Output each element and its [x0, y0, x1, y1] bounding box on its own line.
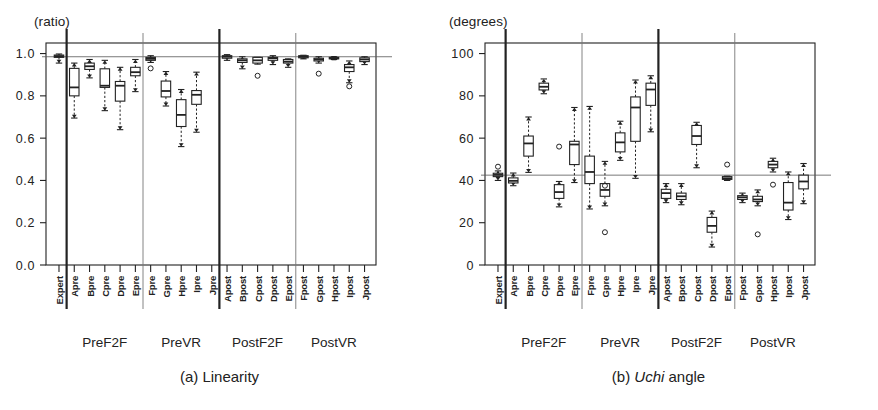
x-tick-label: Cpre	[100, 276, 111, 297]
x-tick-label: Fpre	[146, 276, 157, 296]
boxplot-box	[615, 121, 624, 160]
x-tick-label: Ipre	[630, 276, 641, 293]
group-label: PostVR	[750, 335, 796, 350]
panel-uchi-angle: (degrees) 020406080100ExpertApreBpreCpre…	[439, 0, 878, 410]
boxplot-box	[360, 57, 369, 65]
boxplot-box	[677, 184, 686, 205]
outlier-point	[725, 162, 730, 167]
x-tick-label: Dpost	[707, 275, 718, 302]
x-tick-label: Dpre	[554, 276, 565, 297]
boxplot-box	[692, 122, 701, 167]
x-tick-label: Apost	[661, 275, 672, 302]
x-tick-label: Apre	[508, 276, 519, 297]
y-tick-label: 80	[459, 89, 474, 103]
boxplot-box	[722, 162, 731, 180]
boxplot-box	[299, 55, 308, 59]
x-tick-label: Jpre	[207, 276, 218, 295]
outlier-point	[316, 71, 321, 76]
boxplot-box	[631, 80, 640, 178]
x-tick-label: Gpost	[753, 275, 764, 302]
x-tick-label: Apre	[69, 276, 80, 297]
boxplot-box	[100, 60, 109, 110]
outlier-point	[602, 230, 607, 235]
y-tick-label: 60	[459, 132, 474, 146]
x-tick-label: Gpost	[314, 275, 325, 302]
x-tick-label: Ipre	[191, 276, 202, 293]
boxplot-box	[646, 76, 655, 132]
boxplot-box	[585, 106, 594, 209]
x-tick-label: Bpost	[237, 275, 248, 302]
outlier-point	[495, 164, 500, 169]
x-tick-label: Cpost	[253, 275, 264, 302]
y-tick-label: 0.4	[16, 174, 35, 188]
caption-rest-b: angle	[664, 368, 705, 385]
x-tick-label: Jpost	[360, 275, 371, 300]
caption-italic-b: Uchi	[634, 368, 664, 385]
x-tick-label: Bpre	[524, 276, 535, 297]
y-tick-label: 0	[466, 259, 474, 273]
boxplot-box	[70, 63, 79, 118]
x-tick-label: Epost	[722, 275, 733, 301]
boxplot-box	[146, 56, 155, 71]
boxplot-box	[661, 184, 670, 203]
y-tick-label: 0.8	[16, 89, 35, 103]
boxplot-box	[707, 211, 716, 247]
x-tick-label: Fpost	[298, 275, 309, 301]
x-tick-label: Jpost	[799, 275, 810, 300]
boxplot-box	[253, 57, 262, 78]
group-label: PreVR	[161, 335, 201, 350]
x-tick-label: Hpost	[329, 275, 340, 302]
boxplot-box	[539, 79, 548, 94]
caption-rest-a: Linearity	[202, 368, 259, 385]
group-label: PostVR	[311, 335, 357, 350]
x-tick-label: Fpre	[585, 276, 596, 296]
x-tick-label: Hpost	[768, 275, 779, 302]
y-tick-label: 0.6	[16, 132, 35, 146]
y-tick-label: 0.2	[16, 216, 35, 230]
x-tick-label: Cpost	[692, 275, 703, 302]
boxplot-box	[768, 158, 777, 187]
boxplot-box	[85, 59, 94, 77]
boxplot-box	[738, 193, 747, 203]
boxplot-box	[314, 57, 323, 76]
x-tick-label: Expert	[493, 275, 504, 304]
x-tick-label: Apost	[222, 275, 233, 302]
caption-prefix-a: (a)	[180, 368, 203, 385]
x-tick-label: Fpost	[737, 275, 748, 301]
outlier-point	[347, 84, 352, 89]
group-label: PreF2F	[82, 335, 127, 350]
boxplot-box	[161, 72, 170, 106]
boxplot-box	[238, 57, 247, 69]
x-tick-label: Gpre	[600, 276, 611, 297]
boxplot-box	[600, 161, 609, 234]
caption-prefix-b: (b)	[612, 368, 635, 385]
boxplot-box	[784, 172, 793, 220]
boxplot-box	[115, 67, 124, 129]
x-tick-label: Dpost	[268, 275, 279, 302]
boxplot-svg-linearity: 0.00.20.40.60.81.0ExpertApreBpreCpreDpre…	[0, 0, 439, 410]
x-tick-label: Bpost	[676, 275, 687, 302]
boxplot-box	[222, 55, 231, 61]
x-tick-label: Ipost	[344, 275, 355, 298]
panel-linearity: (ratio) 0.00.20.40.60.81.0ExpertApreBpre…	[0, 0, 439, 410]
outlier-point	[255, 73, 260, 78]
boxplot-box	[176, 90, 185, 147]
x-tick-label: Ipost	[783, 275, 794, 298]
outlier-point	[755, 232, 760, 237]
y-tick-label: 40	[459, 174, 474, 188]
y-tick-label: 0.0	[16, 259, 35, 273]
boxplot-box	[493, 164, 502, 180]
x-tick-label: Bpre	[85, 276, 96, 297]
boxplot-box	[268, 56, 277, 65]
x-tick-label: Jpre	[646, 276, 657, 295]
boxplot-box	[570, 107, 579, 182]
boxplot-box	[345, 61, 354, 89]
figure-boxplots: (ratio) 0.00.20.40.60.81.0ExpertApreBpre…	[0, 0, 878, 410]
panel-caption-a: (a) Linearity	[0, 368, 439, 385]
x-tick-label: Expert	[54, 275, 65, 304]
y-tick-label: 20	[459, 216, 474, 230]
group-label: PreVR	[600, 335, 640, 350]
outlier-point	[557, 144, 562, 149]
boxplot-box	[54, 54, 63, 63]
x-tick-label: Gpre	[161, 276, 172, 297]
